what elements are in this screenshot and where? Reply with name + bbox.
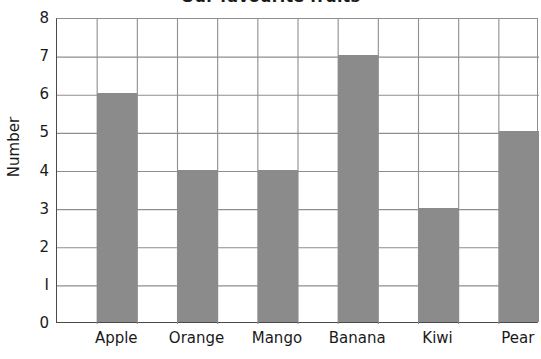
y-tick-label-7: 7 <box>3 49 49 64</box>
y-tick-label-6: 6 <box>3 87 49 102</box>
bar-orange <box>178 170 218 323</box>
y-tick-label-1: I <box>3 278 49 293</box>
x-tick-label-pear: Pear <box>468 329 541 348</box>
chart-title: Our favourite fruits <box>0 0 541 6</box>
bar-apple <box>97 93 137 322</box>
y-axis-tick-labels: 8765432I0 <box>0 0 49 359</box>
y-tick-label-0: 0 <box>3 316 49 331</box>
bar-pear <box>499 131 539 322</box>
y-tick-label-3: 3 <box>3 202 49 217</box>
bar-kiwi <box>419 208 459 322</box>
y-tick-label-5: 5 <box>3 125 49 140</box>
plot-area <box>56 18 538 323</box>
x-axis-tick-labels: AppleOrangeMangoBananaKiwiPear <box>56 329 538 355</box>
y-tick-label-2: 2 <box>3 240 49 255</box>
bar-chart: Our favourite fruits Number 8765432I0 Ap… <box>0 0 541 359</box>
bar-banana <box>338 55 378 322</box>
bar-mango <box>258 170 298 323</box>
y-tick-label-8: 8 <box>3 11 49 26</box>
bars-layer <box>57 19 537 322</box>
y-tick-label-4: 4 <box>3 164 49 179</box>
